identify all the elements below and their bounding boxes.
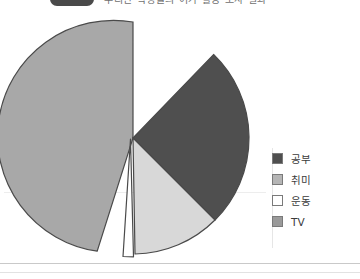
header-badge [50,0,94,6]
legend-label-tv: TV [291,216,305,228]
pie-chart [0,11,268,259]
legend-label-exercise: 운동 [291,193,311,208]
plot-area [0,11,268,259]
legend-label-hobby: 취미 [291,172,311,187]
chart-page: 우리반 학생들의 여가 활동 조사 결과 공부 취미 운동 [0,0,360,279]
chart-header: 우리반 학생들의 여가 활동 조사 결과 [0,0,360,11]
legend-swatch-study [272,153,283,164]
footer-rule-primary [0,263,360,264]
pie-slice-hobby[interactable] [0,20,133,251]
legend-swatch-exercise [272,195,283,206]
legend-item-exercise[interactable]: 운동 [272,190,356,211]
page-title: 우리반 학생들의 여가 활동 조사 결과 [104,0,267,6]
legend-item-hobby[interactable]: 취미 [272,169,356,190]
legend-item-tv[interactable]: TV [272,211,356,232]
legend-swatch-hobby [272,174,283,185]
legend-swatch-tv [272,216,283,227]
legend-label-study: 공부 [291,151,311,166]
chart-legend: 공부 취미 운동 TV [272,148,356,232]
legend-item-study[interactable]: 공부 [272,148,356,169]
footer-rule-secondary [0,272,360,273]
